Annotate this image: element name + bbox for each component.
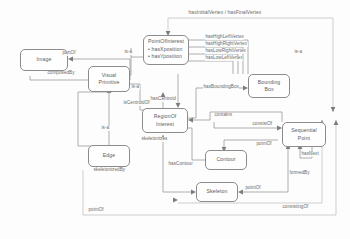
edge-label-consisting-of: consistingOf [282,205,309,210]
node-point-of-interest-label: PointOfInterest [147,38,185,45]
edge-label-has-low-right-vertex: hasLowRightVertex [205,49,246,54]
node-sequential-point-label-2: Point [298,135,310,142]
node-sequential-point-label-1: Sequential [291,127,317,134]
edge-label-composed-by: composedBy [47,71,75,76]
node-region-of-interest[interactable]: RegionOf Interest [142,108,188,133]
edge-label-has-high-left-vertex: hasHighLeftVertex [205,35,244,40]
node-point-of-interest-attr-y: • hasYposition [147,53,182,60]
edge-label-is-centroid-of: isCentroidOf [123,101,150,106]
node-image-label: Image [37,56,52,63]
node-edge-label: Edge [103,152,116,159]
edge-label-is-a-right: is-a [294,50,303,55]
edge-label-skeletonizes: skeletonizes [141,137,168,142]
diagram-canvas: Image Visual Primitive Edge PointOfInter… [0,0,350,239]
edge-label-point-of-contour: pointOf [256,142,272,147]
edge-label-has-high-right-vertex: hasHighRightVertex [205,42,248,47]
edge-label-point-of-skeleton: pointOf [245,186,261,191]
node-image[interactable]: Image [20,49,68,71]
edge-label-has-low-left-vertex: hasLowLeftVertex [205,56,243,61]
node-sequential-point[interactable]: Sequential Point [282,122,326,147]
edge-label-has-bounding-box: hasBoundingBox [203,85,239,90]
node-visual-primitive[interactable]: Visual Primitive [88,66,130,92]
edge-label-part-of: partOf [62,51,76,56]
edge-label-has-centroid: hasCentroid [150,97,176,102]
node-bounding-box[interactable]: Bounding Box [248,74,290,98]
node-edge[interactable]: Edge [88,145,130,167]
edge-label-has-contour: hasContour [168,162,193,167]
node-bounding-box-label-2: Box [264,86,273,93]
node-skeleton-label: Skeleton [207,188,228,195]
edge-label-formed-by: formedBy [289,171,310,176]
node-contour[interactable]: Contour [205,150,247,170]
edge-label-consist-of: consistOf [252,122,273,127]
node-bounding-box-label-1: Bounding [258,79,281,86]
node-region-of-interest-label-2: Interest [156,121,174,128]
edge-label-is-a-edge: is-a [101,126,110,131]
edge-label-is-a-roi: is-a [131,85,140,90]
edge-label-is-a-poi: is-a [124,50,133,55]
edge-label-has-initial-final-vertex: hasInitialVertex / hasFinalVertex [188,10,262,15]
node-region-of-interest-label-1: RegionOf [154,113,177,120]
edge-label-skeletonized-by: skeletonizedBy [93,168,126,173]
edge-label-point-of-bottom: pointOf [88,208,104,213]
node-point-of-interest[interactable]: PointOfInterest • hasXposition • hasYpos… [143,35,189,65]
node-visual-primitive-label-2: Primitive [99,79,120,86]
node-visual-primitive-label-1: Visual [102,72,117,79]
edge-label-contains: contains [214,113,233,118]
node-skeleton[interactable]: Skeleton [196,182,238,202]
edge-label-has-next: hasNext [301,152,319,157]
node-contour-label: Contour [216,156,235,163]
node-point-of-interest-attr-x: • hasXposition [147,46,182,53]
